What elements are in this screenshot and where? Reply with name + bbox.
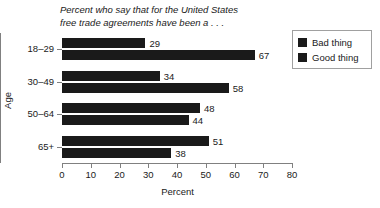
- x-axis-tick: [263, 164, 264, 168]
- bar-value-label: 44: [189, 115, 204, 126]
- bar: [62, 83, 229, 93]
- legend-item[interactable]: Bad thing: [298, 35, 371, 50]
- bar: [62, 148, 171, 158]
- bar: [62, 71, 160, 81]
- y-axis-tick: [57, 49, 62, 50]
- legend-item[interactable]: Good thing: [298, 50, 371, 65]
- x-axis-tick: [148, 164, 149, 168]
- x-axis-tick: [91, 164, 92, 168]
- bar-row: 44: [62, 115, 292, 125]
- x-axis-tick-label: 80: [280, 169, 304, 180]
- x-axis-tick-label: 70: [251, 169, 275, 180]
- bar-row: 38: [62, 148, 292, 158]
- x-axis-tick: [292, 164, 293, 168]
- x-axis-tick-label: 0: [50, 169, 74, 180]
- bar: [62, 136, 209, 146]
- plot-area: 2967345848445138: [62, 33, 292, 163]
- bar-row: 58: [62, 83, 292, 93]
- x-axis-tick: [206, 164, 207, 168]
- bar-row: 51: [62, 136, 292, 146]
- y-axis-tick-label: 30–49: [14, 76, 54, 87]
- bar-value-label: 67: [255, 50, 270, 61]
- bar-value-label: 34: [160, 70, 175, 81]
- bar: [62, 115, 189, 125]
- legend-swatch-icon: [298, 38, 307, 47]
- y-axis-tick-label: 50–64: [14, 108, 54, 119]
- bar: [62, 103, 200, 113]
- y-axis-tick: [57, 147, 62, 148]
- y-axis-tick-label: 18–29: [14, 43, 54, 54]
- x-axis-tick-label: 40: [165, 169, 189, 180]
- chart-title: Percent who say that for the United Stat…: [60, 3, 310, 29]
- y-axis-title: Age: [2, 81, 13, 121]
- x-axis-tick-label: 20: [108, 169, 132, 180]
- legend-label: Good thing: [312, 52, 358, 63]
- x-axis-tick: [235, 164, 236, 168]
- bar-value-label: 29: [145, 38, 160, 49]
- x-axis-tick: [177, 164, 178, 168]
- y-axis-tick: [57, 114, 62, 115]
- bar-row: 67: [62, 50, 292, 60]
- bar-row: 48: [62, 103, 292, 113]
- x-axis-tick: [120, 164, 121, 168]
- bar: [62, 50, 255, 60]
- bar-row: 29: [62, 38, 292, 48]
- y-axis-tick-label: 65+: [14, 141, 54, 152]
- legend-swatch-icon: [298, 53, 307, 62]
- bar: [62, 38, 145, 48]
- x-axis-tick-label: 30: [136, 169, 160, 180]
- x-axis-tick: [62, 164, 63, 168]
- legend-label: Bad thing: [312, 37, 352, 48]
- legend: Bad thingGood thing: [292, 30, 372, 69]
- bar-value-label: 58: [229, 82, 244, 93]
- x-axis-tick-label: 60: [223, 169, 247, 180]
- bar-value-label: 38: [171, 147, 186, 158]
- bar-row: 34: [62, 71, 292, 81]
- x-axis-title: Percent: [62, 186, 293, 197]
- y-axis-tick: [57, 82, 62, 83]
- x-axis-tick-label: 50: [194, 169, 218, 180]
- x-axis-tick-label: 10: [79, 169, 103, 180]
- bar-chart: Percent who say that for the United Stat…: [0, 0, 380, 208]
- bar-value-label: 51: [209, 135, 224, 146]
- bar-value-label: 48: [200, 103, 215, 114]
